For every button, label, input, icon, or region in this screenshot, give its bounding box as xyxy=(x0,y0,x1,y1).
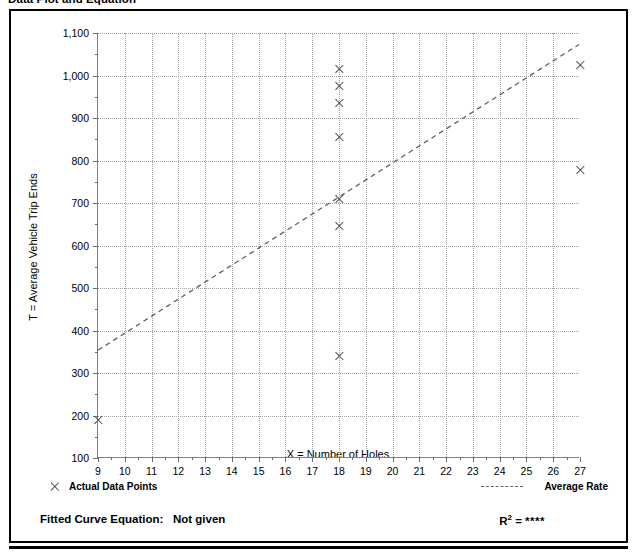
x-axis-tick xyxy=(460,457,461,460)
gridline-horizontal xyxy=(98,33,579,34)
y-axis-tick xyxy=(93,33,98,34)
y-axis-tick xyxy=(95,54,98,55)
page-title: Data Plot and Equation xyxy=(8,0,136,5)
x-axis-tick xyxy=(299,457,300,460)
x-axis-tick xyxy=(232,457,233,462)
y-axis-tick xyxy=(95,224,98,225)
y-axis-tick xyxy=(93,331,98,332)
y-axis-tick xyxy=(93,161,98,162)
data-point-marker xyxy=(334,221,345,232)
x-axis-tick xyxy=(433,457,434,460)
y-axis-tick-label: 1,100 xyxy=(63,27,89,39)
y-axis-tick xyxy=(93,373,98,374)
x-axis-tick xyxy=(326,457,327,460)
x-axis-tick xyxy=(406,457,407,460)
x-axis-tick xyxy=(272,457,273,460)
gridline-horizontal xyxy=(98,331,579,332)
x-axis-tick xyxy=(205,457,206,462)
y-axis-tick xyxy=(93,288,98,289)
data-point-marker xyxy=(334,132,345,143)
equation-value: Not given xyxy=(173,513,225,525)
y-axis-tick-label: 700 xyxy=(71,197,89,209)
y-axis-tick xyxy=(93,76,98,77)
x-axis-tick xyxy=(245,457,246,460)
gridline-horizontal xyxy=(98,416,579,417)
legend-label-actual-data-points: Actual Data Points xyxy=(69,481,157,492)
r2-exponent: 2 xyxy=(508,513,512,522)
gridline-horizontal xyxy=(98,373,579,374)
r2-equals: = xyxy=(515,515,522,527)
x-axis-tick xyxy=(125,457,126,462)
y-axis-tick-label: 1,000 xyxy=(63,70,89,82)
x-axis-tick xyxy=(446,457,447,462)
y-axis-tick xyxy=(95,352,98,353)
x-axis-tick xyxy=(312,457,313,462)
x-axis-tick xyxy=(339,457,340,462)
r2-value: **** xyxy=(525,515,545,527)
y-axis-tick xyxy=(95,309,98,310)
y-axis-tick xyxy=(93,458,98,459)
y-axis-tick xyxy=(95,437,98,438)
x-axis-tick xyxy=(192,457,193,460)
y-axis-tick-label: 300 xyxy=(71,367,89,379)
x-axis-tick xyxy=(138,457,139,460)
x-axis-tick xyxy=(473,457,474,462)
y-axis-tick-label: 100 xyxy=(71,452,89,464)
x-axis-tick xyxy=(165,457,166,460)
data-point-marker xyxy=(334,351,345,362)
data-point-marker xyxy=(575,59,586,70)
gridline-horizontal xyxy=(98,118,579,119)
r2-label: R xyxy=(499,515,507,527)
chart-page: Data Plot and Equation T = Average Vehic… xyxy=(0,0,638,553)
chart-legend: Actual Data Points Average Rate xyxy=(11,473,630,503)
x-axis-tick xyxy=(393,457,394,462)
chart-frame: T = Average Vehicle Trip Ends X = Number… xyxy=(9,9,628,543)
x-axis-tick xyxy=(540,457,541,460)
x-axis-tick xyxy=(567,457,568,460)
y-axis-tick-label: 800 xyxy=(71,155,89,167)
x-axis-tick xyxy=(366,457,367,462)
x-axis-tick xyxy=(259,457,260,462)
x-axis-tick xyxy=(111,457,112,460)
y-axis-tick xyxy=(93,118,98,119)
x-axis-tick xyxy=(219,457,220,460)
y-axis-tick xyxy=(93,203,98,204)
x-axis-tick xyxy=(352,457,353,460)
y-axis-tick-label: 900 xyxy=(71,112,89,124)
y-axis-tick xyxy=(95,267,98,268)
y-axis-title: T = Average Vehicle Trip Ends xyxy=(27,173,39,320)
y-axis-tick xyxy=(95,139,98,140)
data-point-marker xyxy=(334,193,345,204)
data-point-marker xyxy=(334,64,345,75)
data-point-marker xyxy=(334,98,345,109)
x-axis-tick xyxy=(152,457,153,462)
x-axis-tick xyxy=(379,457,380,460)
y-axis-tick xyxy=(93,416,98,417)
plot-area: 9101112131415161718192021222324252627100… xyxy=(97,33,579,458)
bottom-rule xyxy=(9,546,628,549)
gridlines xyxy=(98,33,579,457)
gridline-horizontal xyxy=(98,288,579,289)
x-axis-tick xyxy=(580,457,581,462)
x-axis-tick xyxy=(486,457,487,460)
y-axis-tick xyxy=(95,97,98,98)
y-axis-tick xyxy=(95,182,98,183)
chart-footer: Fitted Curve Equation: Not given R2 = **… xyxy=(11,505,630,541)
x-axis-tick xyxy=(98,457,99,462)
x-axis-tick xyxy=(500,457,501,462)
y-axis-tick-label: 200 xyxy=(71,410,89,422)
x-axis-tick xyxy=(513,457,514,460)
data-point-marker xyxy=(575,164,586,175)
gridline-horizontal xyxy=(98,246,579,247)
r-squared: R2 = **** xyxy=(499,513,545,527)
x-axis-tick xyxy=(526,457,527,462)
y-axis-tick-label: 500 xyxy=(71,282,89,294)
plot-block: T = Average Vehicle Trip Ends X = Number… xyxy=(11,11,630,471)
y-axis-tick xyxy=(95,394,98,395)
x-axis-tick xyxy=(419,457,420,462)
x-axis-tick xyxy=(285,457,286,462)
equation-label: Fitted Curve Equation: xyxy=(40,513,163,525)
y-axis-tick xyxy=(93,246,98,247)
y-axis-tick-label: 400 xyxy=(71,325,89,337)
y-axis-tick-label: 600 xyxy=(71,240,89,252)
